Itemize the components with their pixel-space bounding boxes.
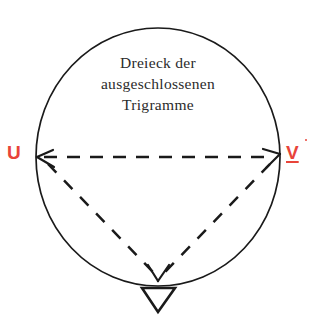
- diagram-vector-layer: [0, 0, 316, 318]
- vertex-label-u: U: [7, 143, 21, 162]
- dashed-edge-right: [165, 164, 270, 272]
- circle-caption: Dreieck der ausgeschlossenen Trigramme: [58, 52, 258, 115]
- arrowhead-left: [37, 150, 54, 167]
- vertex-label-v: V: [286, 143, 299, 162]
- nabla-triangle-icon: [142, 288, 175, 312]
- label-tick-dot: [305, 139, 307, 141]
- dashed-edge-left: [48, 164, 153, 272]
- arrowhead-bottom: [148, 265, 169, 281]
- arrowhead-right: [263, 149, 280, 168]
- caption-line-3: Trigramme: [58, 94, 258, 115]
- caption-line-2: ausgeschlossenen: [58, 73, 258, 94]
- caption-line-1: Dreieck der: [58, 52, 258, 73]
- diagram-canvas: Dreieck der ausgeschlossenen Trigramme U…: [0, 0, 316, 318]
